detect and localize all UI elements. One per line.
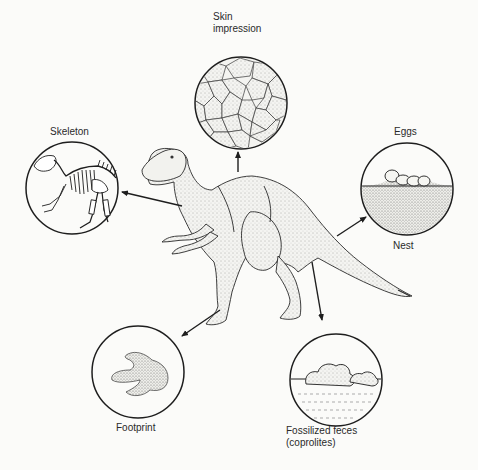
skeleton-inset bbox=[26, 142, 118, 234]
arrow-to-nest bbox=[337, 217, 366, 236]
skin-label-line2: impression bbox=[213, 23, 261, 35]
fossil-evidence-diagram: Skin impression Skeleton Eggs Nest Footp… bbox=[0, 0, 478, 470]
skin-label-line1: Skin bbox=[213, 11, 261, 23]
arrow-to-skeleton bbox=[122, 192, 182, 206]
footprint-inset bbox=[92, 326, 184, 418]
nest-label: Nest bbox=[393, 240, 414, 252]
eggs-nest-inset bbox=[360, 143, 454, 240]
diagram-artwork bbox=[0, 0, 478, 470]
coprolites-label-line2: (coprolites) bbox=[286, 437, 357, 449]
footprint-label: Footprint bbox=[116, 422, 155, 434]
coprolites-label: Fossilized feces (coprolites) bbox=[286, 425, 357, 449]
coprolites-label-line1: Fossilized feces bbox=[286, 425, 357, 437]
arrow-to-coprolites bbox=[312, 262, 322, 320]
skin-impression-label: Skin impression bbox=[213, 11, 261, 35]
coprolites-inset bbox=[290, 334, 382, 426]
eggs-label: Eggs bbox=[394, 126, 417, 138]
skeleton-label: Skeleton bbox=[50, 126, 89, 138]
skin-impression-inset bbox=[190, 57, 290, 150]
